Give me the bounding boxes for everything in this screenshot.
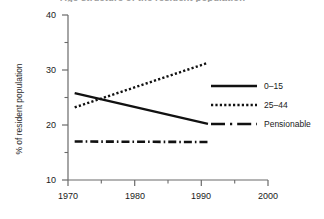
legend-label-25-44: 25–44 — [264, 100, 288, 110]
legend-label-0-15: 0–15 — [264, 81, 283, 91]
series-line-25-44 — [75, 63, 208, 108]
legend-item-0-15[interactable]: 0–15 — [210, 80, 324, 99]
legend-swatch-dash-dot — [210, 118, 258, 130]
legend-swatch-solid — [210, 80, 258, 92]
chart-legend: 0–15 25–44 Pensionable — [210, 80, 324, 137]
series-line-pensionable — [75, 142, 208, 143]
series-line-0-15 — [75, 93, 208, 124]
legend-label-pensionable: Pensionable — [264, 119, 311, 129]
legend-item-pensionable[interactable]: Pensionable — [210, 118, 324, 137]
legend-swatch-dotted — [210, 99, 258, 111]
chart-container: Age structure of the resident population… — [0, 0, 324, 219]
legend-item-25-44[interactable]: 25–44 — [210, 99, 324, 118]
